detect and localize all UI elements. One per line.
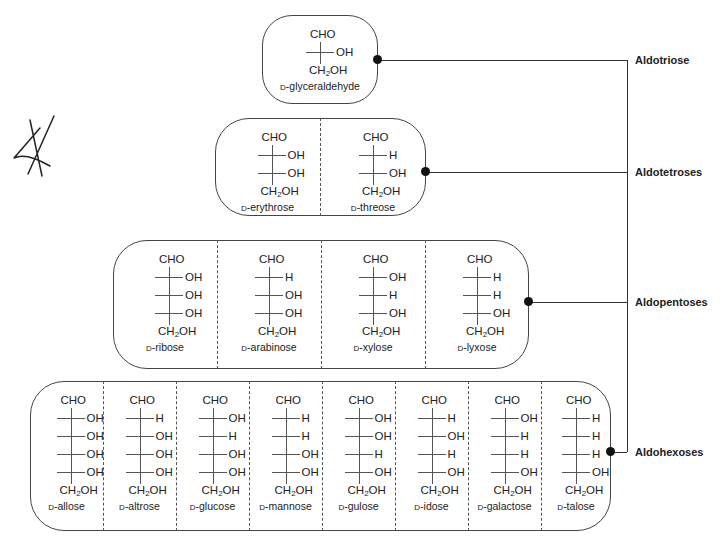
aldehyde-group: CHO: [61, 394, 87, 406]
right-substituent: H: [448, 448, 456, 460]
sugar-name-text: -xylose: [359, 341, 392, 353]
right-substituent: OH: [375, 412, 392, 424]
stereocenter-bond: [359, 155, 387, 156]
right-substituent: H: [493, 289, 501, 301]
right-substituent: H: [302, 412, 310, 424]
aldehyde-group: CHO: [566, 394, 592, 406]
terminal-group: CH2OH: [158, 325, 196, 337]
terminal-group: CH2OH: [275, 484, 313, 496]
sugar-name: D-mannose: [249, 500, 322, 514]
right-substituent: OH: [389, 271, 406, 283]
stereocenter-bond: [491, 436, 519, 437]
stereocenter-bond: [306, 52, 334, 53]
stereocenter-bond: [57, 436, 85, 437]
aldehyde-group: CHO: [130, 394, 156, 406]
right-substituent: OH: [336, 46, 353, 58]
stereocenter-bond: [359, 295, 387, 296]
sugar-name-text: -arabinose: [247, 341, 297, 353]
sugar-name-text: -gulose: [344, 500, 378, 512]
right-substituent: OH: [389, 307, 406, 319]
stereocenter-bond: [345, 454, 373, 455]
sugar-name-text: -galactose: [483, 500, 531, 512]
aldotriose-label: Aldotriose: [635, 54, 689, 66]
stereocenter-bond: [463, 277, 491, 278]
aldopentoses-node: [524, 297, 533, 306]
terminal-group: CH2OH: [202, 484, 240, 496]
sugar-name: D-xylose: [321, 341, 425, 355]
aldehyde-group: CHO: [310, 28, 336, 40]
stereocenter-bond: [272, 454, 300, 455]
carbon-backbone: [373, 267, 374, 325]
aldehyde-group: CHO: [349, 394, 375, 406]
stereocenter-bond: [418, 436, 446, 437]
right-substituent: H: [521, 448, 529, 460]
right-substituent: H: [521, 430, 529, 442]
aldehyde-group: CHO: [262, 131, 288, 143]
sugar-name-text: -altrose: [125, 500, 160, 512]
right-substituent: OH: [87, 412, 104, 424]
sugar-name: D-idose: [395, 500, 468, 514]
sugar-name: D-lyxose: [425, 341, 529, 355]
right-substituent: OH: [288, 149, 305, 161]
stereocenter-bond: [562, 436, 590, 437]
stereocenter-bond: [463, 313, 491, 314]
right-substituent: H: [229, 430, 237, 442]
right-substituent: OH: [389, 167, 406, 179]
stereocenter-bond: [491, 454, 519, 455]
terminal-group: CH2OH: [362, 325, 400, 337]
aldehyde-group: CHO: [276, 394, 302, 406]
aldopentoses-label: Aldopentoses: [635, 296, 708, 308]
right-substituent: OH: [493, 307, 510, 319]
stereocenter-bond: [255, 295, 283, 296]
sugar-name-text: -ribose: [152, 341, 184, 353]
aldehyde-group: CHO: [203, 394, 229, 406]
right-substituent: H: [389, 289, 397, 301]
terminal-group: CH2OH: [362, 185, 400, 197]
terminal-group: CH2OH: [258, 325, 296, 337]
right-substituent: OH: [288, 167, 305, 179]
sugar-name-text: -lyxose: [463, 341, 496, 353]
stereocenter-bond: [199, 436, 227, 437]
stereocenter-bond: [199, 454, 227, 455]
sugar-name: D-galactose: [468, 500, 541, 514]
right-substituent: H: [493, 271, 501, 283]
right-substituent: H: [592, 430, 600, 442]
stereocenter-bond: [272, 472, 300, 473]
carbon-backbone: [272, 145, 273, 185]
stereocenter-bond: [255, 277, 283, 278]
right-substituent: OH: [521, 412, 538, 424]
aldehyde-group: CHO: [495, 394, 521, 406]
sugar-name-text: -allose: [54, 500, 85, 512]
right-substituent: OH: [156, 448, 173, 460]
right-substituent: OH: [448, 466, 465, 478]
terminal-group: CH2OH: [261, 185, 299, 197]
terminal-group: CH2OH: [309, 64, 347, 76]
right-substituent: OH: [375, 430, 392, 442]
aldopentoses-connector: [529, 302, 627, 303]
stereocenter-bond: [272, 418, 300, 419]
stereocenter-bond: [345, 436, 373, 437]
stereocenter-bond: [258, 155, 286, 156]
stereocenter-bond: [272, 436, 300, 437]
stereocenter-bond: [126, 418, 154, 419]
right-substituent: OH: [87, 466, 104, 478]
sugar-name-text: -idose: [420, 500, 449, 512]
sugar-name-text: -glucose: [196, 500, 236, 512]
sugar-name: D-threose: [320, 201, 426, 215]
stereocenter-bond: [418, 472, 446, 473]
stereocenter-bond: [345, 472, 373, 473]
right-substituent: OH: [375, 466, 392, 478]
scribble-icon: [10, 112, 60, 182]
stereocenter-bond: [199, 472, 227, 473]
sugar-name: D-glyceraldehyde: [262, 80, 378, 94]
tree-trunk-line: [627, 60, 628, 452]
right-substituent: OH: [302, 448, 319, 460]
right-substituent: OH: [185, 271, 202, 283]
stereocenter-bond: [359, 173, 387, 174]
stereocenter-bond: [126, 472, 154, 473]
stereocenter-bond: [463, 295, 491, 296]
aldotetroses-connector: [426, 172, 627, 173]
right-substituent: H: [285, 271, 293, 283]
right-substituent: OH: [156, 466, 173, 478]
right-substituent: H: [592, 448, 600, 460]
